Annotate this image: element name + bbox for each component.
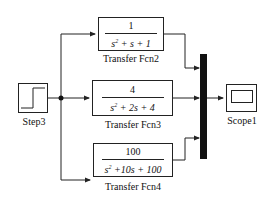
line-tf4-to-mux (172, 138, 199, 160)
step-block[interactable] (18, 83, 48, 113)
transfer-fcn2-label: Transfer Fcn2 (96, 53, 166, 64)
tf4-fraction-bar (102, 159, 164, 160)
tf2-fraction-bar (105, 33, 157, 34)
transfer-fcn3-label: Transfer Fcn3 (95, 119, 171, 130)
tf2-den-rest: + s + 1 (118, 38, 150, 49)
tf3-numerator: 4 (124, 84, 141, 95)
tf4-numerator: 100 (120, 146, 147, 157)
tf4-denominator: s2 +10s + 100 (105, 162, 162, 175)
line-tf2-to-mux (164, 34, 199, 68)
transfer-fcn4-block[interactable]: 100 s2 +10s + 100 (93, 143, 173, 177)
tf4-den-rest: +10s + 100 (112, 164, 162, 175)
transfer-fcn3-block[interactable]: 4 s2 + 2s + 4 (92, 80, 173, 116)
scope-screen-icon (231, 90, 253, 103)
transfer-fcn4-label: Transfer Fcn4 (95, 181, 171, 192)
transfer-fcn2-block[interactable]: 1 s2 + s + 1 (98, 17, 164, 51)
scope-block[interactable] (226, 84, 257, 112)
step-label: Step3 (14, 116, 54, 127)
mux-block[interactable] (200, 54, 207, 159)
tf3-fraction-bar (102, 97, 164, 98)
step-icon (19, 84, 47, 112)
tf3-den-rest: + 2s + 4 (117, 102, 154, 113)
branch-junction-dot (59, 96, 64, 101)
tf2-denominator: s2 + s + 1 (111, 36, 150, 49)
tf3-denominator: s2 + 2s + 4 (110, 100, 154, 113)
tf2-numerator: 1 (123, 20, 140, 31)
scope-label: Scope1 (221, 115, 263, 126)
